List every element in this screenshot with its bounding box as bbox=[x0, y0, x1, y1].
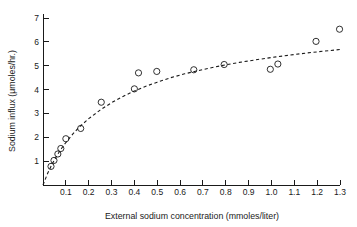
data-point-marker bbox=[63, 136, 69, 142]
x-tick-label: 0.8 bbox=[220, 187, 232, 197]
x-tick-label: 0.2 bbox=[83, 187, 95, 197]
data-point-marker bbox=[267, 66, 273, 72]
x-tick-label: 0.1 bbox=[60, 187, 72, 197]
y-axis-title: Sodium influx (μmoles/hr.) bbox=[7, 50, 17, 152]
y-tick-label: 2 bbox=[34, 132, 39, 142]
data-point-marker bbox=[336, 26, 342, 32]
y-tick-label: 5 bbox=[34, 61, 39, 71]
data-point-marker bbox=[154, 68, 160, 74]
data-point-marker bbox=[51, 157, 57, 163]
figure-panel: 0.10.20.30.40.50.60.70.80.91.01.11.21.3 … bbox=[0, 0, 357, 227]
y-axis-ticks: 1234567 bbox=[34, 13, 49, 166]
y-tick-label: 4 bbox=[34, 85, 39, 95]
scatter-plot: 0.10.20.30.40.50.60.70.80.91.01.11.21.3 … bbox=[0, 0, 357, 227]
x-tick-label: 1.1 bbox=[288, 187, 300, 197]
data-point-marker bbox=[275, 61, 281, 67]
y-tick-label: 6 bbox=[34, 37, 39, 47]
data-point-marker bbox=[98, 99, 104, 105]
x-tick-label: 0.4 bbox=[128, 187, 140, 197]
x-tick-label: 0.5 bbox=[151, 187, 163, 197]
x-tick-label: 0.9 bbox=[243, 187, 255, 197]
x-tick-label: 1.3 bbox=[334, 187, 346, 197]
x-tick-label: 0.7 bbox=[197, 187, 209, 197]
x-tick-label: 1.0 bbox=[266, 187, 278, 197]
data-point-marker bbox=[135, 70, 141, 76]
data-point-marker bbox=[313, 38, 319, 44]
axes bbox=[44, 14, 341, 186]
x-axis-ticks: 0.10.20.30.40.50.60.70.80.91.01.11.21.3 bbox=[60, 180, 346, 197]
y-tick-label: 7 bbox=[34, 13, 39, 23]
y-tick-label: 1 bbox=[34, 156, 39, 166]
x-tick-label: 0.6 bbox=[174, 187, 186, 197]
y-tick-label: 3 bbox=[34, 108, 39, 118]
fit-curve bbox=[43, 49, 340, 185]
x-tick-label: 1.2 bbox=[311, 187, 323, 197]
data-points bbox=[48, 26, 343, 169]
x-tick-label: 0.3 bbox=[106, 187, 118, 197]
x-axis-title: External sodium concentration (mmoles/li… bbox=[105, 211, 279, 221]
data-point-marker bbox=[221, 61, 227, 67]
